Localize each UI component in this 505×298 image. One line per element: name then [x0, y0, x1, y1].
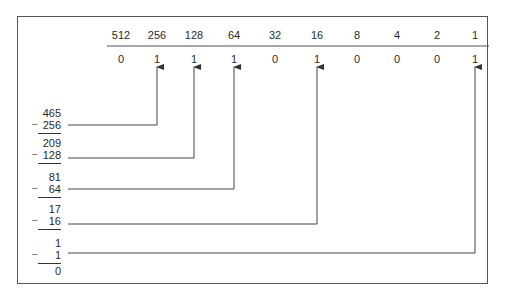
connector-arrow — [68, 67, 317, 224]
connector-arrow — [68, 67, 157, 125]
connector-arrow — [68, 67, 475, 253]
connector-arrow — [68, 67, 234, 189]
connector-lines — [0, 0, 505, 298]
connector-arrow — [68, 67, 194, 158]
